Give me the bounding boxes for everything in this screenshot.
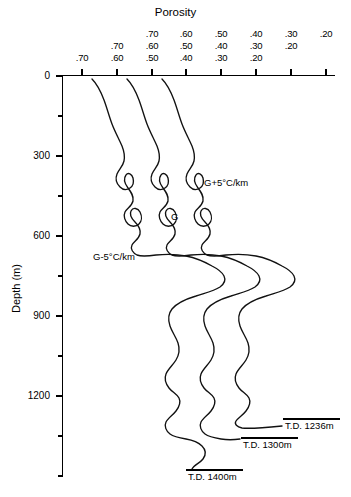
plot-canvas bbox=[0, 0, 351, 497]
porosity-depth-figure: Porosity .70 .60 .50 .40 .30 .20 .70 .60… bbox=[0, 0, 351, 497]
porosity-curve-g-minus-5 bbox=[92, 79, 225, 469]
porosity-curve-g-plus-5 bbox=[162, 79, 295, 428]
td-underlines bbox=[186, 419, 340, 470]
porosity-curve-g bbox=[127, 79, 260, 440]
